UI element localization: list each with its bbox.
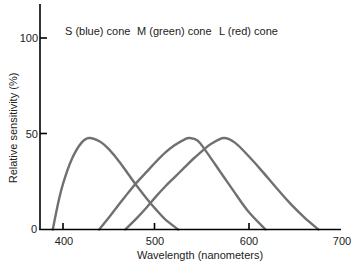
x-tick-label-600: 600 — [240, 235, 258, 247]
s-cone-curve — [53, 138, 178, 230]
x-axis-title: Wavelength (nanometers) — [137, 249, 263, 261]
x-tick-label-700: 700 — [333, 235, 351, 247]
x-tick-label-400: 400 — [55, 235, 73, 247]
y-tick-label-50: 50 — [26, 128, 38, 140]
y-tick-label-0: 0 — [31, 223, 37, 235]
l-cone-curve — [125, 138, 318, 230]
y-axis-title: Relative sensitivity (%) — [7, 73, 19, 184]
s-cone-label: S (blue) cone — [65, 25, 130, 37]
l-cone-label: L (red) cone — [219, 25, 278, 37]
y-tick-label-100: 100 — [20, 32, 38, 44]
plot-area — [53, 138, 319, 230]
x-tick-label-500: 500 — [146, 235, 164, 247]
cone-sensitivity-chart: 100 50 0 400 500 600 700 Wavelength (nan… — [0, 0, 358, 267]
m-cone-label: M (green) cone — [137, 25, 212, 37]
m-cone-curve — [99, 138, 265, 230]
